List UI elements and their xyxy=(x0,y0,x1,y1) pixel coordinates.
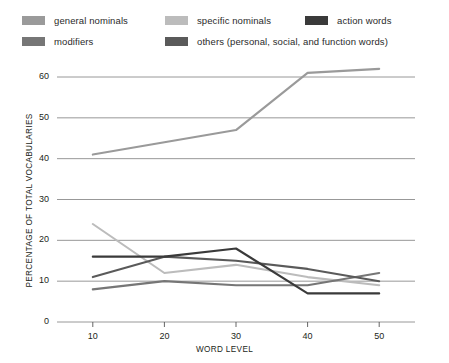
y-tick-label: 30 xyxy=(27,195,49,204)
y-tick-label: 60 xyxy=(27,72,49,81)
y-tick-label: 20 xyxy=(27,235,49,244)
chart-figure: general nominals specific nominals actio… xyxy=(0,0,449,363)
series-line xyxy=(93,249,379,294)
chart-plot-area: PERCENTAGE OF TOTAL VOCABULARIES WORD LE… xyxy=(0,0,449,363)
series-line xyxy=(93,69,379,155)
series-line xyxy=(93,224,379,285)
x-axis-title: WORD LEVEL xyxy=(0,345,449,354)
x-tick-label: 10 xyxy=(78,332,108,341)
y-tick-label: 50 xyxy=(27,113,49,122)
y-tick-label: 10 xyxy=(27,276,49,285)
y-tick-label: 40 xyxy=(27,154,49,163)
x-tick-label: 40 xyxy=(293,332,323,341)
chart-canvas xyxy=(0,0,449,363)
y-tick-label: 0 xyxy=(27,317,49,326)
series-line xyxy=(93,257,379,282)
x-tick-label: 50 xyxy=(364,332,394,341)
x-tick-label: 20 xyxy=(149,332,179,341)
x-tick-label: 30 xyxy=(221,332,251,341)
